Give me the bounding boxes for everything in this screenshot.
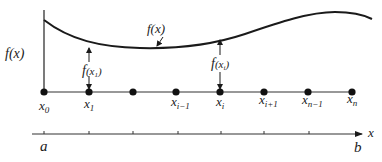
axis-label-a: a bbox=[40, 138, 48, 154]
axis-variable-x: x bbox=[367, 125, 374, 140]
fxi-arg: (x bbox=[215, 58, 224, 71]
point-x1 bbox=[85, 88, 92, 95]
axis-label-b: b bbox=[354, 139, 362, 155]
svg-text:f(x1): f(x1) bbox=[82, 63, 102, 79]
svg-text:f(xi): f(xi) bbox=[211, 56, 229, 72]
label-xi-plus-1: xi+1 bbox=[258, 92, 278, 109]
label-x0: x0 bbox=[38, 98, 50, 115]
point-x0 bbox=[40, 88, 47, 95]
label-xn-minus-1: xn−1 bbox=[301, 92, 323, 109]
label-x1: x1 bbox=[83, 96, 94, 113]
partition-diagram: f(x) f(x) f(x1) f(xi) x0 x1 xi−1 xi xi+1… bbox=[0, 0, 382, 162]
label-xi: xi bbox=[215, 94, 225, 111]
y-axis-label: f(x) bbox=[5, 46, 25, 62]
fxi-close: ) bbox=[224, 58, 229, 71]
function-value-x1: f(x1) bbox=[82, 48, 102, 89]
label-xn: xn bbox=[346, 91, 358, 108]
fx1-arg: (x bbox=[86, 65, 95, 78]
function-value-xi: f(xi) bbox=[211, 40, 229, 89]
label-xi-minus-1: xi−1 bbox=[170, 94, 190, 111]
function-curve bbox=[44, 12, 372, 48]
fx1-close: ) bbox=[97, 65, 102, 78]
point-x2 bbox=[129, 88, 136, 95]
curve-label: f(x) bbox=[147, 21, 165, 36]
curve-label-pointer bbox=[157, 37, 163, 46]
